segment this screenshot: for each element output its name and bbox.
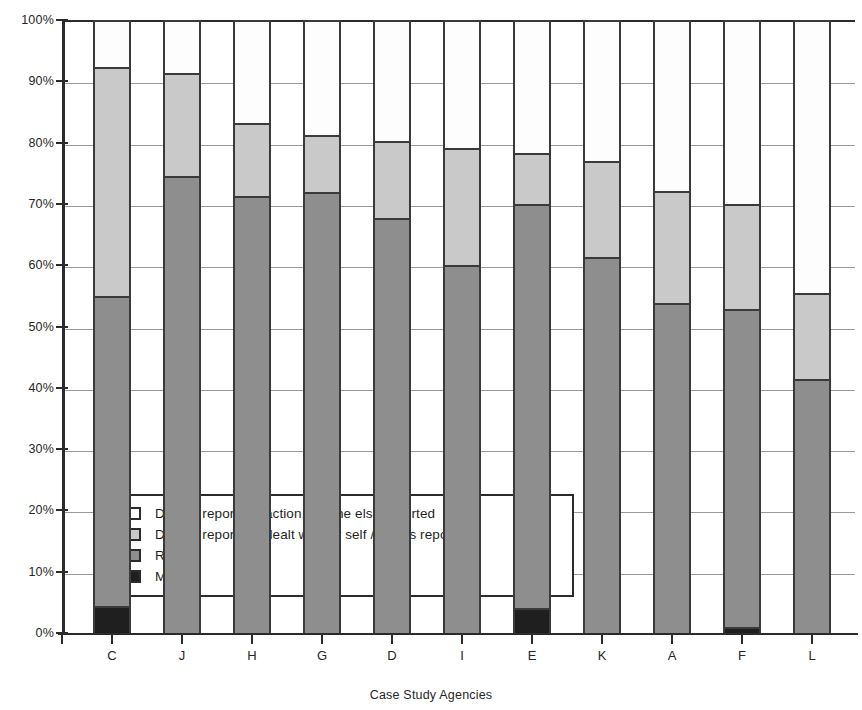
y-tick-mark	[56, 448, 68, 450]
y-tick-label: 80%	[6, 136, 54, 150]
bar-segment	[95, 67, 129, 296]
bar-A	[653, 20, 691, 633]
bar-H	[233, 20, 271, 633]
bar-segment	[585, 257, 619, 633]
y-tick-label: 90%	[6, 74, 54, 88]
x-axis-title: Case Study Agencies	[0, 688, 862, 702]
x-tick-mark	[321, 633, 323, 644]
x-tick-mark	[601, 633, 603, 644]
bar-segment	[725, 309, 759, 627]
y-tick-label: 60%	[6, 258, 54, 272]
bar-segment	[725, 20, 759, 204]
y-axis: 0%10%20%30%40%50%60%70%80%90%100%	[0, 0, 54, 710]
bar-segment	[95, 20, 129, 67]
x-tick-label-D: D	[362, 648, 422, 663]
x-tick-label-F: F	[712, 648, 772, 663]
bar-segment	[95, 296, 129, 606]
y-tick-label: 20%	[6, 503, 54, 517]
x-tick-mark	[181, 633, 183, 644]
y-tick-mark	[56, 387, 68, 389]
stacked-bar-chart: 0%10%20%30%40%50%60%70%80%90%100% Case S…	[0, 0, 862, 710]
y-tick-mark	[56, 80, 68, 82]
bar-segment	[795, 20, 829, 293]
bar-segment	[235, 196, 269, 633]
bar-segment	[165, 176, 199, 633]
x-tick-mark	[251, 633, 253, 644]
bar-segment	[95, 606, 129, 633]
bar-segment	[305, 192, 339, 633]
y-tick-label: 30%	[6, 442, 54, 456]
bar-G	[303, 20, 341, 633]
bar-segment	[795, 379, 829, 633]
x-tick-label-E: E	[502, 648, 562, 663]
bar-segment	[515, 608, 549, 633]
x-tick-label-I: I	[432, 648, 492, 663]
bar-segment	[305, 20, 339, 135]
y-tick-label: 100%	[6, 13, 54, 27]
x-tick-label-G: G	[292, 648, 352, 663]
y-tick-label: 10%	[6, 565, 54, 579]
bar-segment	[725, 204, 759, 309]
x-tick-mark	[531, 633, 533, 644]
y-tick-label: 40%	[6, 381, 54, 395]
y-tick-label: 70%	[6, 197, 54, 211]
bar-segment	[445, 20, 479, 148]
x-tick-mark	[811, 633, 813, 644]
x-tick-label-K: K	[572, 648, 632, 663]
bar-L	[793, 20, 831, 633]
y-tick-mark	[56, 264, 68, 266]
y-tick-mark	[56, 509, 68, 511]
x-tick-label-A: A	[642, 648, 702, 663]
y-tick-mark	[56, 326, 68, 328]
y-tick-mark	[56, 19, 68, 21]
bar-segment	[375, 20, 409, 141]
bar-segment	[585, 20, 619, 161]
x-tick-label-H: H	[222, 648, 282, 663]
bar-D	[373, 20, 411, 633]
bar-segment	[655, 303, 689, 633]
x-axis-origin-tick	[61, 633, 63, 644]
bar-segment	[375, 141, 409, 218]
bar-segment	[165, 20, 199, 73]
y-tick-mark	[56, 571, 68, 573]
x-tick-label-J: J	[152, 648, 212, 663]
bar-segment	[795, 293, 829, 379]
x-axis-line	[58, 633, 858, 635]
bar-segment	[165, 73, 199, 176]
bar-segment	[655, 20, 689, 191]
y-tick-mark	[56, 203, 68, 205]
x-tick-mark	[111, 633, 113, 644]
bar-segment	[515, 153, 549, 204]
bar-segment	[515, 204, 549, 609]
x-tick-label-C: C	[82, 648, 142, 663]
bar-segment	[585, 161, 619, 257]
y-tick-mark	[56, 142, 68, 144]
x-tick-mark	[671, 633, 673, 644]
bar-segment	[655, 191, 689, 303]
x-tick-mark	[391, 633, 393, 644]
bar-F	[723, 20, 761, 633]
bar-J	[163, 20, 201, 633]
x-tick-mark	[461, 633, 463, 644]
bar-K	[583, 20, 621, 633]
bar-E	[513, 20, 551, 633]
y-tick-label: 0%	[6, 626, 54, 640]
y-tick-label: 50%	[6, 320, 54, 334]
bar-segment	[235, 123, 269, 196]
bar-I	[443, 20, 481, 633]
bar-segment	[445, 265, 479, 633]
x-tick-label-L: L	[782, 648, 842, 663]
x-tick-mark	[741, 633, 743, 644]
bar-segment	[515, 20, 549, 153]
bar-segment	[375, 218, 409, 633]
bar-segment	[445, 148, 479, 266]
bar-segment	[305, 135, 339, 192]
bar-segment	[235, 20, 269, 123]
bar-C	[93, 20, 131, 633]
